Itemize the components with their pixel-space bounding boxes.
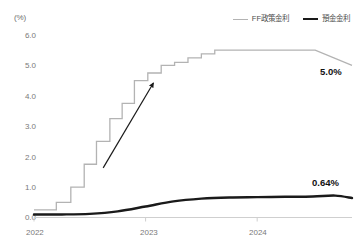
series-line-ff-policy-rate — [34, 50, 352, 210]
axis-lines — [34, 218, 352, 222]
chart-container: (%) FF政策金利 預金金利 6.0 5.0 4.0 3.0 2.0 1.0 … — [0, 0, 358, 246]
upward-trend-arrow — [103, 83, 153, 168]
chart-plot-area — [0, 0, 358, 246]
series-line-deposit-rate — [34, 196, 352, 215]
x-axis-tick-marks — [34, 218, 257, 222]
